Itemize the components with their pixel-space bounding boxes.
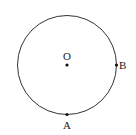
center-label-o: O <box>63 50 71 62</box>
circle-diagram: O B A <box>0 0 136 135</box>
point-b <box>115 63 118 66</box>
center-point-o <box>65 63 68 66</box>
point-a-label: A <box>63 119 71 131</box>
point-b-label: B <box>119 59 126 71</box>
point-a <box>65 113 68 116</box>
